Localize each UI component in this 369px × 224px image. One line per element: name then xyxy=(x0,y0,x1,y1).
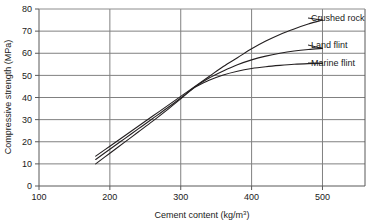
y-tick-label: 30 xyxy=(22,115,32,125)
x-tick-label: 300 xyxy=(173,192,188,202)
x-tick-label: 500 xyxy=(315,192,330,202)
y-tick-label: 10 xyxy=(22,159,32,169)
y-axis-title: Compressive strength (MPa) xyxy=(3,40,13,155)
series-label-marine-flint: Marine flint xyxy=(311,58,356,68)
y-tick-label: 20 xyxy=(22,137,32,147)
x-axis-title: Cement content (kg/m3) xyxy=(155,210,250,220)
x-tick-label: 100 xyxy=(31,192,46,202)
y-axis-tick-labels: 01020304050607080 xyxy=(22,4,32,191)
y-tick-label: 50 xyxy=(22,71,32,81)
y-tick-label: 40 xyxy=(22,93,32,103)
y-tick-label: 60 xyxy=(22,48,32,58)
series-label-land-flint: Land flint xyxy=(311,40,348,50)
chart-figure: 100200300400500 01020304050607080 Crushe… xyxy=(0,0,369,224)
x-tick-label: 400 xyxy=(244,192,259,202)
x-tick-label: 200 xyxy=(102,192,117,202)
y-tick-label: 70 xyxy=(22,26,32,36)
series-label-crushed-rock: Crushed rock xyxy=(311,13,365,23)
chart-background xyxy=(0,0,369,224)
compressive-strength-chart: 100200300400500 01020304050607080 Crushe… xyxy=(0,0,369,224)
y-tick-label: 0 xyxy=(27,181,32,191)
y-tick-label: 80 xyxy=(22,4,32,14)
